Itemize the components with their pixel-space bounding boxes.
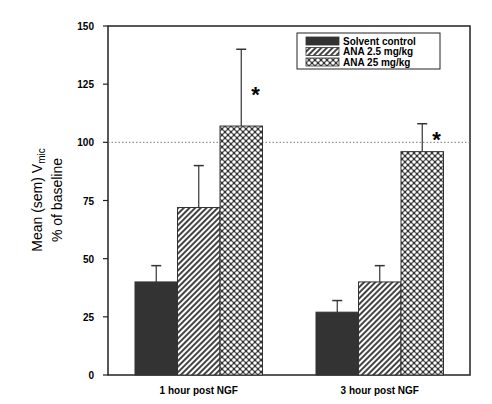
y-axis-label: Mean (sem) Vmic <box>29 148 47 251</box>
bar <box>135 282 178 375</box>
bar <box>359 282 402 375</box>
bar <box>401 152 444 375</box>
plot-area: 02550751001251501 hour post NGF3 hour po… <box>29 21 470 396</box>
y-tick-label: 150 <box>77 21 94 32</box>
y-tick-label: 75 <box>83 196 95 207</box>
bar <box>178 207 221 375</box>
y-tick-label: 50 <box>83 254 95 265</box>
y-tick-label: 125 <box>77 79 94 90</box>
legend-label: ANA 2.5 mg/kg <box>343 46 413 57</box>
legend: Solvent controlANA 2.5 mg/kgANA 25 mg/kg <box>297 33 440 69</box>
x-category-label: 1 hour post NGF <box>160 385 238 396</box>
y-tick-label: 0 <box>88 370 94 381</box>
legend-swatch <box>306 48 339 56</box>
bar <box>220 126 263 375</box>
legend-label: Solvent control <box>343 36 416 47</box>
significance-star: * <box>251 82 260 107</box>
bar-chart: 02550751001251501 hour post NGF3 hour po… <box>0 0 492 404</box>
legend-swatch <box>306 37 339 45</box>
bar <box>316 312 359 375</box>
y-axis-label-line2: % of baseline <box>49 158 65 242</box>
legend-swatch <box>306 58 339 66</box>
y-tick-label: 100 <box>77 137 94 148</box>
x-category-label: 3 hour post NGF <box>341 385 419 396</box>
significance-star: * <box>432 127 441 152</box>
y-tick-label: 25 <box>83 312 95 323</box>
legend-label: ANA 25 mg/kg <box>343 57 410 68</box>
